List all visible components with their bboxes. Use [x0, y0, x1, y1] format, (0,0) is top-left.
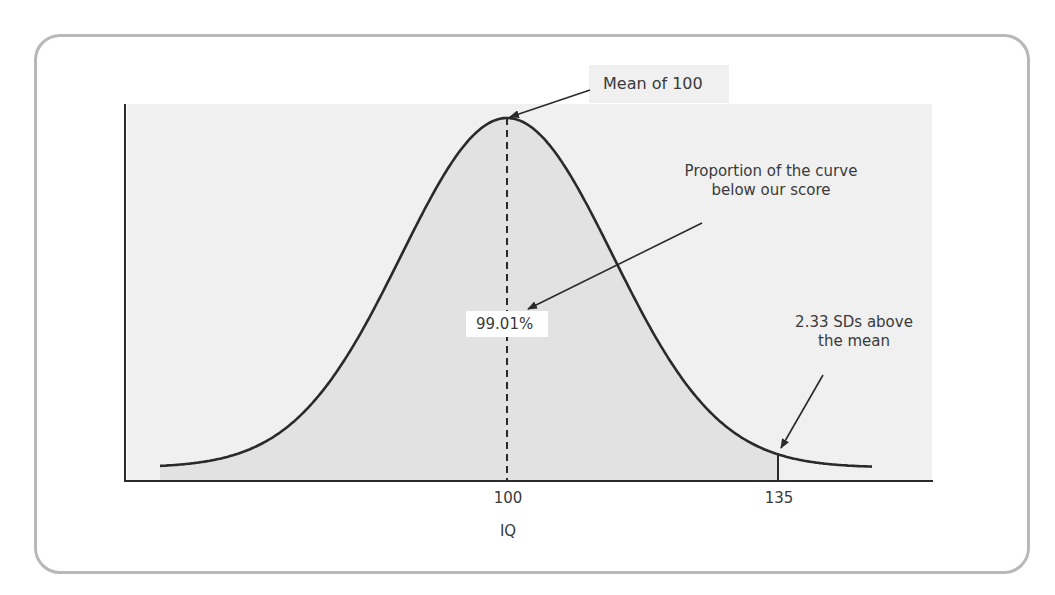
x-tick-135: 135	[765, 489, 794, 508]
x-tick-100: 100	[494, 489, 523, 508]
proportion-label-line2: below our score	[685, 181, 858, 200]
normal-distribution-chart	[0, 0, 1055, 595]
sd-label: 2.33 SDs above the mean	[795, 313, 913, 351]
mean-label: Mean of 100	[603, 74, 703, 93]
x-axis-label: IQ	[500, 522, 516, 541]
proportion-label: Proportion of the curve below our score	[685, 162, 858, 200]
sd-label-line1: 2.33 SDs above	[795, 313, 913, 332]
proportion-label-line1: Proportion of the curve	[685, 162, 858, 181]
percent-label: 99.01%	[476, 315, 533, 334]
sd-label-line2: the mean	[795, 332, 913, 351]
